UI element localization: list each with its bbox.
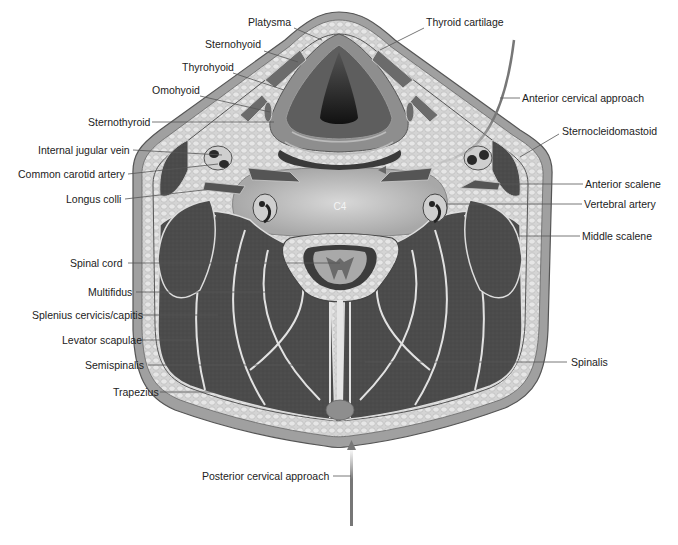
label-thyroid-cartilage: Thyroid cartilage (426, 16, 504, 28)
spinous-process-tip (326, 400, 354, 420)
label-semispinalis: Semispinalis (85, 359, 144, 371)
carotid-sheath-right (464, 146, 492, 170)
anatomy-illustration: C4 (0, 0, 678, 545)
label-splenius-cervicis-capitis: Splenius cervicis/capitis (32, 309, 143, 321)
carotid-sheath-left (204, 146, 232, 170)
label-anterior-scalene: Anterior scalene (585, 178, 661, 190)
label-sternothyroid: Sternothyroid (88, 116, 150, 128)
nuchal-ligament (337, 300, 343, 410)
label-sternohyoid: Sternohyoid (205, 38, 261, 50)
label-vertebral-artery: Vertebral artery (584, 198, 656, 210)
label-anterior-cervical-approach: Anterior cervical approach (522, 92, 644, 104)
label-multifidus: Multifidus (88, 286, 132, 298)
posterior-needle (350, 448, 353, 526)
label-common-carotid-artery: Common carotid artery (18, 168, 125, 180)
label-spinal-cord: Spinal cord (70, 257, 123, 269)
label-thyrohyoid: Thyrohyoid (182, 61, 234, 73)
vertebral-artery-right (423, 194, 447, 222)
vertebra-label: C4 (334, 201, 347, 212)
neck-cross-section-figure: C4 (0, 0, 678, 545)
label-internal-jugular-vein: Internal jugular vein (38, 144, 130, 156)
label-longus-colli: Longus colli (66, 193, 121, 205)
label-platysma: Platysma (248, 16, 291, 28)
label-spinalis: Spinalis (571, 356, 608, 368)
label-omohyoid: Omohyoid (152, 84, 200, 96)
label-trapezius: Trapezius (113, 386, 159, 398)
label-middle-scalene: Middle scalene (582, 230, 652, 242)
label-sternocleidomastoid: Sternocleidomastoid (562, 125, 657, 137)
vertebral-artery-left (253, 194, 277, 222)
label-posterior-cervical-approach: Posterior cervical approach (202, 470, 329, 482)
label-levator-scapulae: Levator scapulae (62, 334, 142, 346)
